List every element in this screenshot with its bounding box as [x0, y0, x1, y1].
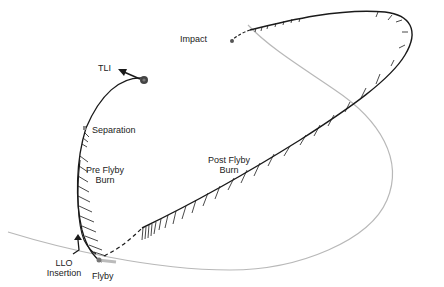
coast-dashed-to-impact [232, 30, 250, 40]
separation-marker-icon [83, 126, 86, 130]
tli-arrow-shaft [124, 72, 140, 79]
impact-label: Impact [180, 34, 207, 44]
post-flyby-burn-label-line1: Post Flyby [204, 155, 254, 165]
coast-dashed-after-flyby [104, 228, 142, 256]
pre-flyby-burn-label-line2: Burn [85, 175, 125, 185]
llo-insertion-label: LLO Insertion [44, 258, 84, 278]
reference-orbit-curve [8, 25, 392, 270]
pre-flyby-path-outer [77, 128, 102, 262]
flyby-marker-icon [97, 258, 102, 263]
tli-label: TLI [98, 63, 111, 73]
pre-flyby-burn-hatches [78, 132, 106, 256]
llo-insertion-label-line2: Insertion [44, 268, 84, 278]
impact-marker-icon [230, 39, 234, 43]
pre-flyby-burn-label-line1: Pre Flyby [85, 165, 125, 175]
llo-insertion-label-line1: LLO [44, 258, 84, 268]
tli-trajectory [86, 78, 144, 128]
flyby-label: Flyby [92, 271, 114, 281]
post-flyby-burn-label-line2: Burn [204, 165, 254, 175]
trajectory-diagram [0, 0, 444, 287]
llo-insertion-arrow-shaft [73, 240, 79, 254]
separation-label: Separation [92, 125, 136, 135]
post-flyby-burn-label: Post Flyby Burn [204, 155, 254, 175]
pre-flyby-burn-label: Pre Flyby Burn [85, 165, 125, 185]
llo-insertion-arrow-head-icon [74, 234, 82, 240]
tli-marker-inner [142, 78, 145, 81]
post-flyby-burn-hatches [142, 12, 408, 240]
